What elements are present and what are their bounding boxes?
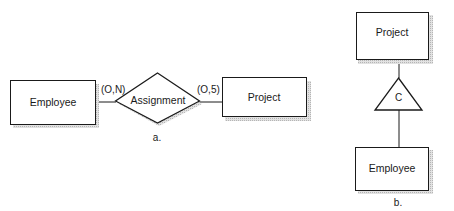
er-diagram-canvas: Employee Assignment Project (O,N) (O,5) … xyxy=(0,0,454,211)
entity-label: Project xyxy=(248,91,281,103)
relationship-assignment[interactable]: Assignment xyxy=(116,73,203,126)
caption-b: b. xyxy=(394,197,402,208)
entity-employee-a[interactable]: Employee xyxy=(11,81,100,129)
entity-label: Employee xyxy=(30,96,77,108)
entity-employee-b[interactable]: Employee xyxy=(356,148,434,195)
diagram-a: Employee Assignment Project (O,N) (O,5) … xyxy=(11,73,312,143)
relationship-label: Assignment xyxy=(131,94,186,106)
diagram-b: Project C Employee b. xyxy=(356,13,434,209)
entity-project-a[interactable]: Project xyxy=(223,78,312,122)
entity-label: Employee xyxy=(369,162,416,174)
cardinality-right: (O,5) xyxy=(197,84,220,95)
constraint-label: C xyxy=(395,92,402,103)
entity-project-b[interactable]: Project xyxy=(357,13,434,65)
entity-label: Project xyxy=(376,26,409,38)
cardinality-left: (O,N) xyxy=(101,84,125,95)
constraint-triangle[interactable]: C xyxy=(375,78,422,110)
caption-a: a. xyxy=(153,132,161,143)
